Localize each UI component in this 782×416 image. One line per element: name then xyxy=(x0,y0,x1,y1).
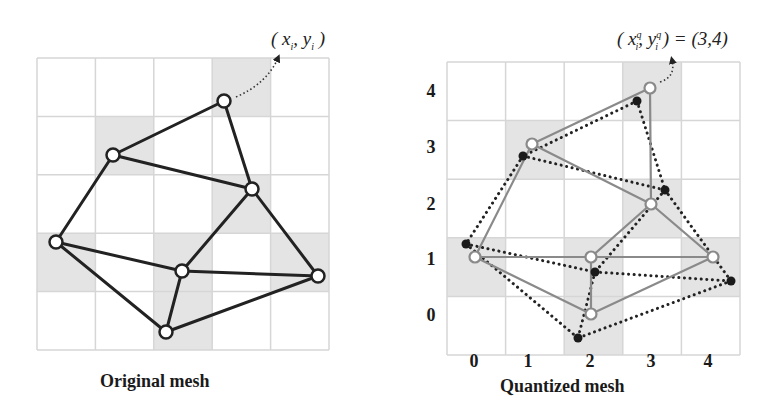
quantized-mesh-caption: Quantized mesh xyxy=(500,376,625,397)
vertex-circle xyxy=(218,95,231,108)
shaded-cell xyxy=(154,233,212,291)
mesh-edge xyxy=(56,155,113,242)
shaded-cell xyxy=(154,292,212,350)
x-tick: 3 xyxy=(647,351,656,372)
y-tick: 2 xyxy=(427,194,436,215)
original-vertex-label: ( xi, yi ) xyxy=(271,28,325,52)
x-tick: 4 xyxy=(704,351,713,372)
original-vertex-dot xyxy=(633,97,642,106)
vertex-circle xyxy=(107,149,120,162)
original-vertex-dot xyxy=(727,277,736,286)
mesh-edge xyxy=(466,156,523,244)
quantized-vertex-circle xyxy=(708,252,719,263)
mesh-quantization-figure xyxy=(0,0,782,416)
quantized-vertex-circle xyxy=(470,252,481,263)
vertex-circle xyxy=(160,326,173,339)
x-tick: 2 xyxy=(586,351,595,372)
y-tick: 3 xyxy=(427,137,436,158)
shaded-cell xyxy=(37,233,95,291)
mesh-edge xyxy=(650,88,651,204)
original-vertex-dot xyxy=(462,240,471,249)
original-vertex-dot xyxy=(574,334,583,343)
y-tick: 4 xyxy=(427,81,436,102)
shaded-cell xyxy=(564,238,623,297)
vertex-circle xyxy=(50,236,63,249)
x-tick: 0 xyxy=(470,351,479,372)
quantized-vertex-circle xyxy=(586,309,597,320)
quantized-vertex-label: ( xqi, yqi ) = (3,4) xyxy=(617,28,728,52)
original-vertex-dot xyxy=(591,268,600,277)
vertex-circle xyxy=(176,265,189,278)
original-vertex-dot xyxy=(519,152,528,161)
x-tick: 1 xyxy=(524,351,533,372)
y-tick: 1 xyxy=(427,249,436,270)
original-mesh-caption: Original mesh xyxy=(100,371,210,392)
quantized-vertex-circle xyxy=(586,252,597,263)
original-vertex-dot xyxy=(661,186,670,195)
quantized-vertex-circle xyxy=(646,199,657,210)
y-tick: 0 xyxy=(427,305,436,326)
vertex-circle xyxy=(312,270,325,283)
quantized-vertex-circle xyxy=(527,139,538,150)
quantized-vertex-circle xyxy=(645,83,656,94)
vertex-circle xyxy=(246,183,259,196)
